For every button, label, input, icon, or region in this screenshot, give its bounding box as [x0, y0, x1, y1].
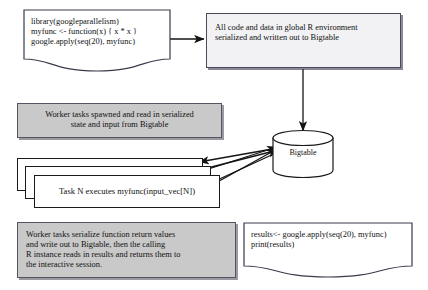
worker-spawn-box: Worker tasks spawned and read in seriali… — [17, 103, 222, 138]
code-document-bottom-text: results<- google.apply(seq(20), myfunc) … — [251, 230, 409, 250]
code-document-top-text: library(googleparallelism) myfunc <- fun… — [31, 17, 167, 47]
worker-return-box: Worker tasks serialize function return v… — [17, 222, 236, 278]
code-document-bottom: results<- google.apply(seq(20), myfunc) … — [243, 222, 413, 278]
worker-spawn-text: Worker tasks spawned and read in seriali… — [18, 104, 221, 137]
bigtable-label: Bigtable — [271, 148, 335, 157]
task-stack: Task N executes myfunc(input_vec[N]) — [17, 158, 232, 210]
serialize-box-text: All code and data in global R environmen… — [207, 14, 400, 67]
worker-return-text: Worker tasks serialize function return v… — [18, 223, 235, 277]
task-stack-front-box: Task N executes myfunc(input_vec[N]) — [34, 175, 220, 208]
code-document-top: library(googleparallelism) myfunc <- fun… — [23, 9, 171, 72]
serialize-box: All code and data in global R environmen… — [206, 13, 401, 68]
diagram-canvas: library(googleparallelism) myfunc <- fun… — [0, 0, 428, 290]
task-n-text: Task N executes myfunc(input_vec[N]) — [35, 176, 219, 207]
bigtable-cylinder: Bigtable — [271, 129, 335, 179]
